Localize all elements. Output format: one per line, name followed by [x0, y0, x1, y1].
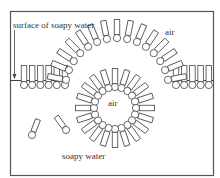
surface-label: surface of soapy water: [13, 20, 94, 30]
soapy-water-label: soapy water: [62, 151, 105, 161]
air-label-bubble: air: [108, 98, 118, 108]
air-label-top: air: [165, 27, 175, 37]
frame: [11, 12, 214, 176]
